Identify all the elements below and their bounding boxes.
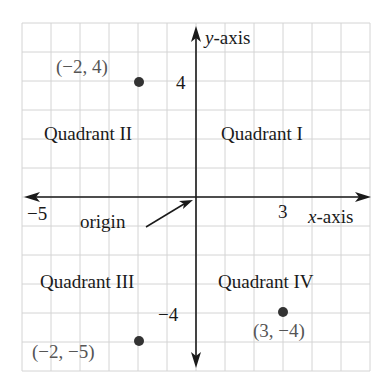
quadrant-iii-label: Quadrant III xyxy=(40,271,134,292)
point-neg2-neg5 xyxy=(134,336,144,346)
point-3-neg4 xyxy=(278,307,288,317)
x-axis-label: x-axis xyxy=(307,206,353,227)
quadrant-ii-label: Quadrant II xyxy=(44,123,132,144)
origin-pointer-line xyxy=(146,204,184,227)
origin-label: origin xyxy=(80,211,126,232)
point-neg2-4 xyxy=(134,77,144,87)
tick-label-y-neg4: −4 xyxy=(158,304,179,325)
y-axis-label: y-axis xyxy=(203,27,250,48)
tick-label-x-3: 3 xyxy=(278,201,288,222)
origin-pointer-arrow-icon xyxy=(179,200,193,209)
point-label-neg2-neg5: (−2, −5) xyxy=(32,341,95,363)
x-axis xyxy=(24,192,371,202)
point-label-neg2-4: (−2, 4) xyxy=(56,56,108,78)
tick-label-y-4: 4 xyxy=(176,72,186,93)
quadrant-i-label: Quadrant I xyxy=(221,123,303,144)
quadrant-iv-label: Quadrant IV xyxy=(218,271,314,292)
tick-label-x-neg5: −5 xyxy=(27,203,47,224)
coordinate-plane-diagram: y-axis x-axis −5 3 4 −4 Quadrant II Quad… xyxy=(0,0,391,386)
point-label-3-neg4: (3, −4) xyxy=(253,320,305,342)
